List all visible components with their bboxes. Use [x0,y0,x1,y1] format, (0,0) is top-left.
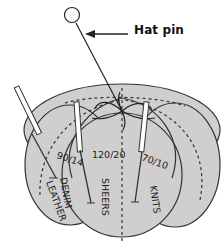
pincushion-diagram: 90/14 120/20 70/10 DENIM LEATHER SHEERS … [0,0,222,247]
left-arrow-icon [85,30,128,38]
size-label-sheers: 120/20 [92,149,125,160]
hat-pin-callout-label: Hat pin [134,23,184,37]
fabric-label-sheers: SHEERS [100,178,111,216]
